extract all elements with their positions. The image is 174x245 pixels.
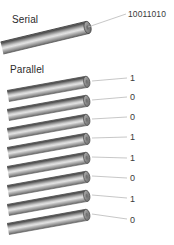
parallel-bit-label-4: 1 (130, 153, 135, 163)
parallel-bit-label-2: 0 (130, 112, 135, 122)
parallel-bit-label-3: 1 (130, 132, 135, 142)
parallel-bit-label-5: 0 (130, 173, 135, 183)
parallel-bit-label-6: 1 (130, 194, 135, 204)
parallel-leader-line-0 (92, 78, 127, 81)
parallel-leader-line-1 (92, 97, 127, 100)
parallel-cable-0 (7, 76, 127, 102)
parallel-leader-line-6 (92, 195, 127, 198)
parallel-leader-line-4 (92, 157, 127, 158)
parallel-leader-line-2 (92, 117, 127, 119)
serial-bit-word: 10011010 (128, 9, 166, 19)
parallel-leader-line-7 (92, 214, 127, 219)
parallel-bit-label-1: 0 (130, 92, 135, 102)
serial-leader-line (88, 14, 126, 27)
parallel-cables (7, 76, 127, 235)
parallel-leader-line-5 (92, 176, 127, 178)
serial-section-label: Serial (12, 14, 38, 25)
parallel-leader-line-3 (92, 137, 127, 138)
serial-parallel-diagram: Serial 10011010 Parallel 1 0 0 1 1 0 1 0 (0, 0, 174, 245)
parallel-bit-label-0: 1 (130, 73, 135, 83)
parallel-bit-label-7: 0 (130, 215, 135, 225)
parallel-section-label: Parallel (10, 64, 44, 75)
diagram-canvas (0, 0, 174, 245)
